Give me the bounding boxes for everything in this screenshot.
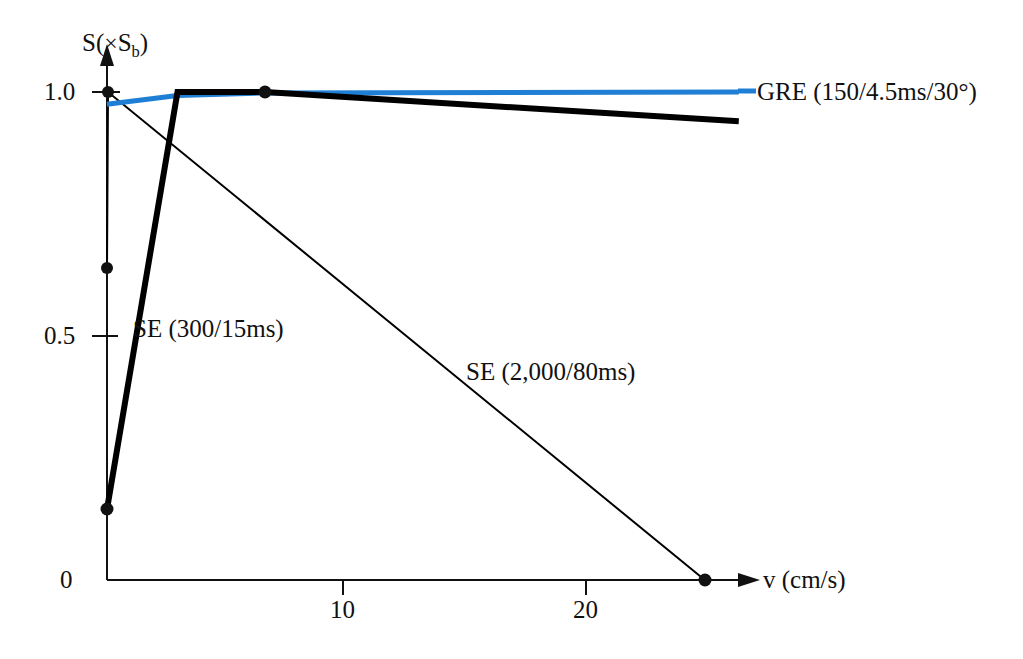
series-se-300-15 (101, 86, 739, 516)
data-point (101, 262, 113, 274)
y-axis-title-main: S (82, 29, 96, 56)
series-label-se-2000-80: SE (2,000/80ms) (466, 359, 635, 384)
x-tick-label-20: 20 (573, 597, 598, 622)
data-point (101, 503, 114, 516)
y-tick-label-0-5: 0.5 (44, 323, 75, 348)
x-axis-title: v (cm/s) (763, 567, 846, 592)
x-tick-label-10: 10 (330, 597, 355, 622)
multiply-icon: × (104, 30, 117, 56)
series-label-se-300-15: SE (300/15ms) (133, 316, 284, 341)
series-line-se-300-15 (107, 92, 739, 509)
data-point (259, 86, 272, 99)
x-axis-arrowhead (738, 573, 760, 587)
y-axis-title-paren-close: ) (140, 29, 148, 56)
y-axis-title-symbol: S (118, 29, 132, 56)
data-point (102, 86, 114, 98)
series-label-gre: GRE (150/4.5ms/30°) (757, 79, 977, 104)
chart-figure: S(×Sb) 1.0 0.5 0 10 20 v (cm/s) GRE (150… (0, 0, 1023, 659)
data-point (699, 574, 712, 587)
y-axis-title-subscript: b (132, 42, 140, 61)
y-axis-title-paren-open: ( (96, 29, 104, 56)
y-tick-label-0: 0 (60, 567, 73, 592)
y-axis-title: S(×Sb) (82, 30, 148, 61)
y-tick-label-1-0: 1.0 (44, 79, 75, 104)
